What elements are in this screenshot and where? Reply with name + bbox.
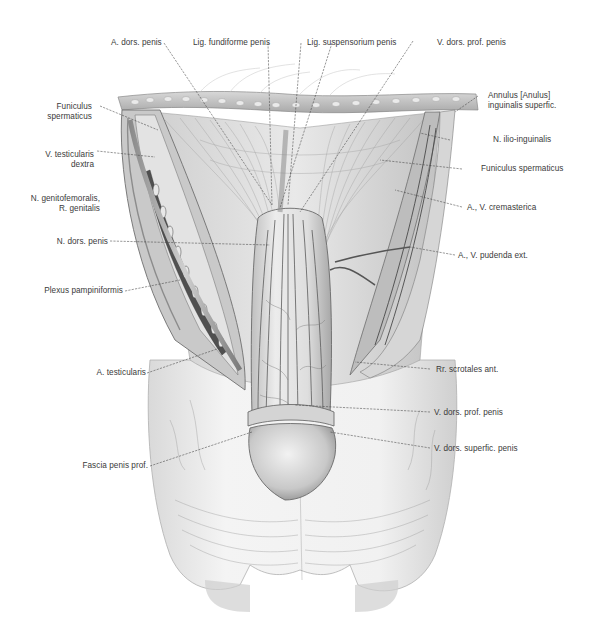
label-a-testicularis: A. testicularis [80,368,146,378]
label-a-v-pudenda-ext: A., V. pudenda ext. [458,251,528,261]
label-funiculus-spermaticus-right: Funiculus spermaticus [481,164,564,174]
label-line: inguinalis superfic. [488,101,556,111]
abdominal-wall [118,64,478,113]
label-line: spermaticus [40,112,92,122]
label-n-genitofemoralis: N. genitofemoralis, R. genitalis [8,194,100,214]
label-line: N. genitofemoralis, [8,194,100,204]
label-v-dors-superfic-penis: V. dors. superfic. penis [434,444,518,454]
label-line: R. genitalis [8,204,100,214]
label-n-ilio-inguinalis: N. ilio-inguinalis [493,135,551,145]
label-v-testicularis-dextra: V. testicularis dextra [26,150,94,170]
label-funiculus-spermaticus-left: Funiculus spermaticus [40,102,92,122]
label-rr-scrotales-ant: Rr. scrotales ant. [436,365,498,375]
label-fascia-penis-prof: Fascia penis prof. [60,461,148,471]
label-line: dextra [26,160,94,170]
label-line: V. testicularis [26,150,94,160]
label-line: Funiculus [40,102,92,112]
anatomical-figure: A. dors. penis Lig. fundiforme penis Lig… [0,0,594,625]
label-line: Annulus [Anulus] [488,91,556,101]
label-lig-fundiforme-penis: Lig. fundiforme penis [193,38,270,48]
label-plexus-pampiniformis: Plexus pampiniformis [20,286,123,296]
label-lig-suspensorium-penis: Lig. suspensorium penis [307,38,396,48]
label-v-dors-prof-penis-top: V. dors. prof. penis [437,38,506,48]
label-a-v-cremasterica: A., V. cremasterica [467,203,536,213]
label-n-dors-penis: N. dors. penis [40,237,108,247]
label-annulus-inguinalis-superfic: Annulus [Anulus] inguinalis superfic. [488,91,556,111]
label-v-dors-prof-penis-right: V. dors. prof. penis [434,408,503,418]
label-a-dors-penis: A. dors. penis [111,38,162,48]
